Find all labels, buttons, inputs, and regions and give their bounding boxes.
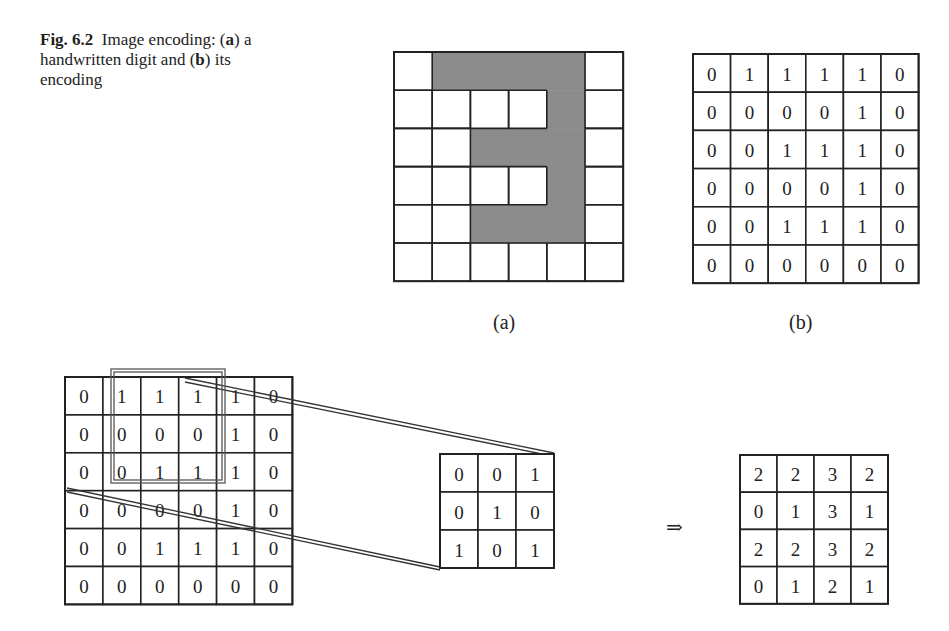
encoding-cell-value: 0 [707, 216, 717, 237]
output-cell-value: 0 [754, 576, 764, 597]
input-cell-value: 0 [155, 576, 165, 597]
encoding-cell-value: 0 [745, 255, 755, 276]
encoding-cell-value: 0 [895, 64, 905, 85]
digit-pixel-on [547, 90, 586, 129]
encoding-grid: 011110000010001110000010001110000000 [693, 54, 919, 283]
convolution-output-grid: 2232013122320121 [740, 455, 888, 604]
encoding-cell-value: 1 [820, 216, 830, 237]
kernel-grid: 001010101 [440, 454, 554, 568]
output-cell-value: 3 [828, 539, 838, 560]
kernel-cell-value: 1 [530, 464, 540, 485]
encoding-cell-value: 1 [820, 140, 830, 161]
subfigure-b-label: (b) [789, 311, 812, 334]
input-cell-value: 0 [79, 538, 89, 559]
input-cell-value: 1 [231, 538, 241, 559]
encoding-cell-value: 0 [782, 255, 792, 276]
digit-pixel-on [470, 52, 509, 91]
input-cell-value: 0 [79, 386, 89, 407]
encoding-cell-value: 0 [782, 178, 792, 199]
encoding-cell-value: 1 [857, 102, 867, 123]
input-cell-value: 0 [117, 576, 127, 597]
input-cell-value: 1 [193, 386, 203, 407]
output-cell-value: 2 [865, 464, 875, 485]
encoding-cell-value: 1 [782, 64, 792, 85]
digit-pixel-on [509, 205, 548, 244]
digit-image-grid [394, 52, 623, 281]
kernel-cell-value: 0 [454, 502, 464, 523]
encoding-cell-value: 0 [707, 64, 717, 85]
output-cell-value: 1 [865, 501, 875, 522]
output-cell-value: 2 [791, 539, 801, 560]
encoding-cell-value: 0 [707, 102, 717, 123]
output-cell-value: 2 [791, 464, 801, 485]
output-cell-value: 3 [828, 501, 838, 522]
input-cell-value: 1 [155, 386, 165, 407]
input-cell-value: 0 [117, 424, 127, 445]
encoding-cell-value: 1 [745, 64, 755, 85]
output-cell-value: 1 [791, 576, 801, 597]
input-cell-value: 0 [269, 538, 279, 559]
output-cell-value: 2 [828, 576, 838, 597]
input-cell-value: 0 [79, 576, 89, 597]
input-cell-value: 1 [193, 538, 203, 559]
encoding-cell-value: 0 [895, 178, 905, 199]
encoding-cell-value: 0 [820, 255, 830, 276]
output-cell-value: 2 [754, 539, 764, 560]
encoding-cell-value: 0 [857, 255, 867, 276]
input-cell-value: 0 [117, 538, 127, 559]
input-cell-value: 1 [231, 500, 241, 521]
output-cell-value: 1 [791, 501, 801, 522]
encoding-cell-value: 1 [857, 64, 867, 85]
encoding-cell-value: 0 [745, 216, 755, 237]
encoding-cell-value: 0 [745, 178, 755, 199]
input-cell-value: 0 [269, 424, 279, 445]
input-cell-value: 1 [231, 462, 241, 483]
encoding-cell-value: 1 [782, 140, 792, 161]
digit-pixel-on [547, 167, 586, 206]
digit-pixel-on [509, 128, 548, 167]
encoding-cell-value: 1 [857, 216, 867, 237]
input-cell-value: 1 [231, 424, 241, 445]
encoding-cell-value: 0 [895, 255, 905, 276]
encoding-cell-value: 1 [857, 140, 867, 161]
encoding-cell-value: 1 [857, 178, 867, 199]
input-cell-value: 0 [193, 424, 203, 445]
input-cell-value: 1 [155, 538, 165, 559]
encoding-cell-value: 1 [820, 64, 830, 85]
output-cell-value: 1 [865, 576, 875, 597]
kernel-cell-value: 0 [492, 464, 502, 485]
encoding-cell-value: 0 [895, 140, 905, 161]
encoding-cell-value: 0 [895, 102, 905, 123]
encoding-cell-value: 0 [820, 102, 830, 123]
digit-pixel-on [547, 128, 586, 167]
encoding-cell-value: 0 [895, 216, 905, 237]
encoding-cell-value: 0 [745, 102, 755, 123]
convolution-input-grid: 011110000010001110000010001110000000 [65, 377, 292, 604]
digit-pixel-on [470, 128, 509, 167]
input-cell-value: 0 [193, 576, 203, 597]
encoding-cell-value: 0 [707, 178, 717, 199]
digit-pixel-on [547, 205, 586, 244]
implies-arrow: ⇒ [666, 515, 683, 539]
encoding-cell-value: 0 [745, 140, 755, 161]
kernel-cell-value: 0 [492, 540, 502, 561]
output-cell-value: 2 [754, 464, 764, 485]
encoding-cell-value: 0 [820, 178, 830, 199]
input-cell-value: 0 [79, 500, 89, 521]
output-cell-value: 0 [754, 501, 764, 522]
input-cell-value: 0 [155, 424, 165, 445]
output-cell-value: 3 [828, 464, 838, 485]
digit-pixel-on [547, 52, 586, 91]
digit-pixel-on [470, 205, 509, 244]
encoding-cell-value: 0 [782, 102, 792, 123]
kernel-cell-value: 1 [530, 540, 540, 561]
input-cell-value: 0 [79, 462, 89, 483]
output-cell-value: 2 [865, 539, 875, 560]
digit-pixel-on [509, 52, 548, 91]
input-cell-value: 0 [79, 424, 89, 445]
encoding-cell-value: 0 [707, 255, 717, 276]
encoding-cell-value: 1 [782, 216, 792, 237]
digit-pixel-on [432, 52, 471, 91]
kernel-cell-value: 1 [492, 502, 502, 523]
input-cell-value: 0 [269, 576, 279, 597]
